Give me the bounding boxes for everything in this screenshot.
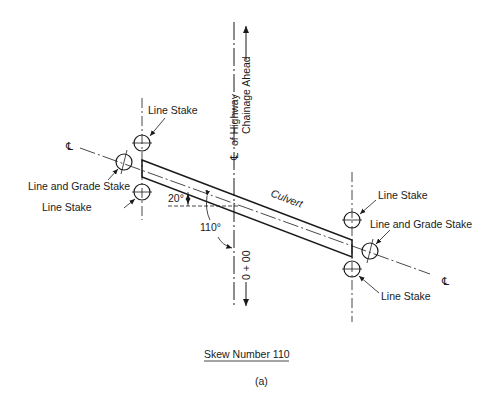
cl-symbol-highway: ℄	[228, 153, 240, 161]
subcaption: (a)	[255, 375, 268, 387]
culvert-label: Culvert	[269, 187, 305, 211]
right-lower-stake-label: Line Stake	[381, 290, 431, 302]
station-label: 0 + 00	[240, 250, 252, 280]
caption: Skew Number 110	[204, 348, 290, 360]
angle-20-label: 20°	[168, 192, 184, 204]
angle-110-label: 110°	[200, 221, 221, 233]
right-grade-stake	[362, 239, 378, 263]
right-upper-stake-label: Line Stake	[378, 189, 428, 201]
left-lower-stake-label: Line Stake	[42, 201, 92, 213]
left-grade-stake	[116, 150, 132, 174]
angle-110-arc	[206, 196, 210, 220]
left-centerline-symbol: ℄	[65, 140, 73, 152]
highway-label: of Highway	[228, 93, 240, 146]
left-upper-stake-label: Line Stake	[148, 104, 198, 116]
highway-label-group: ℄ of Highway	[228, 93, 240, 161]
chainage-label: Chainage Ahead	[240, 56, 252, 134]
left-grade-stake-label: Line and Grade Stake	[28, 180, 130, 192]
culvert-skew-diagram: ℄ of Highway Chainage Ahead 0 + 00 20° 1…	[0, 0, 492, 413]
right-grade-stake-label: Line and Grade Stake	[370, 218, 472, 230]
right-centerline-symbol: ℄	[441, 275, 449, 287]
